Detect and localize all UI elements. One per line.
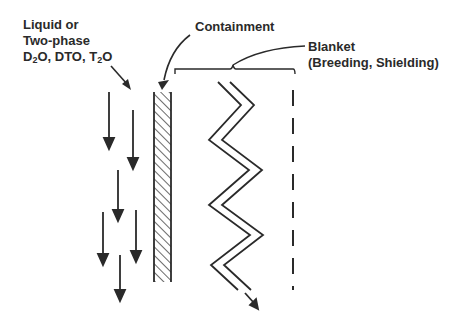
coolant-pointer-arrow — [111, 66, 131, 90]
flow-arrow-icon — [104, 92, 114, 149]
blanket-brace — [175, 46, 305, 74]
flow-arrow-icon — [98, 212, 108, 265]
flow-arrow-icon — [131, 210, 141, 262]
containment-pointer-arrow — [158, 35, 190, 90]
blanket-channel-zigzag — [209, 82, 263, 309]
flow-arrows — [98, 92, 141, 301]
flow-arrow-icon — [113, 170, 123, 221]
flow-arrow-icon — [115, 255, 125, 301]
diagram-canvas — [0, 0, 463, 331]
flow-arrow-icon — [128, 110, 138, 169]
containment-wall — [154, 92, 171, 282]
